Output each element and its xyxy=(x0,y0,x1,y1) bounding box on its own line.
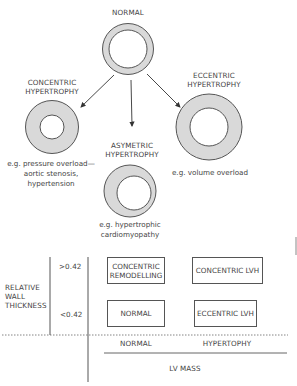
x-normal-label: NORMAL xyxy=(113,339,159,348)
asymmetric-caption: e.g. hypertrophic cardiomyopathy xyxy=(95,220,165,240)
cell-eccentric-lvh: ECCENTRIC LVH xyxy=(194,300,257,327)
asymmetric-label-line-2: HYPERTROPHY xyxy=(100,150,164,159)
concentric-label-line-2: HYPERTROPHY xyxy=(20,87,84,96)
asymmetric-ring-icon xyxy=(104,165,156,217)
y-axis-label-line-2: WALL xyxy=(5,292,47,301)
eccentric-label-line-2: HYPERTROPHY xyxy=(182,80,246,89)
eccentric-hypertrophy-label: ECCENTRIC HYPERTROPHY xyxy=(182,71,246,89)
asymmetric-label-line-1: ASYMETRIC xyxy=(100,141,164,150)
y-high-tick-label: >0.42 xyxy=(59,262,83,271)
asymmetric-caption-line-1: e.g. hypertrophic xyxy=(95,220,165,230)
normal-label: NORMAL xyxy=(108,8,148,17)
cell-concentric-remodelling-line-2: REMODELLING xyxy=(110,271,163,280)
x-axis-label: LV MASS xyxy=(160,364,210,373)
eccentric-label-line-1: ECCENTRIC xyxy=(182,71,246,80)
cell-concentric-remodelling: CONCENTRIC REMODELLING xyxy=(107,257,165,284)
arrow-to-asymmetric-icon xyxy=(131,80,132,126)
concentric-caption-line-1: e.g. pressure overload— xyxy=(2,159,100,169)
x-hypertrophy-label: HYPERTOPHY xyxy=(195,339,259,348)
asymmetric-hypertrophy-label: ASYMETRIC HYPERTROPHY xyxy=(100,141,164,159)
concentric-ring-icon xyxy=(26,101,79,154)
y-axis-label-line-1: RELATIVE xyxy=(5,283,47,292)
concentric-caption-line-2: aortic stenosis, xyxy=(2,169,100,179)
asymmetric-caption-line-2: cardiomyopathy xyxy=(95,230,165,240)
lv-geometry-diagram: NORMAL CONCENTRIC HYPERTROPHY ECCENTRIC … xyxy=(0,0,297,386)
arrow-to-eccentric-icon xyxy=(147,74,180,107)
concentric-label-line-1: CONCENTRIC xyxy=(20,78,84,87)
cell-normal: NORMAL xyxy=(107,300,165,327)
y-axis-label-line-3: THICKNESS xyxy=(5,301,47,310)
concentric-hypertrophy-label: CONCENTRIC HYPERTROPHY xyxy=(20,78,84,96)
cell-concentric-lvh: CONCENTRIC LVH xyxy=(192,257,263,284)
arrow-to-concentric-icon xyxy=(81,75,114,107)
concentric-caption: e.g. pressure overload— aortic stenosis,… xyxy=(2,159,100,189)
cell-concentric-remodelling-line-1: CONCENTRIC xyxy=(110,262,163,271)
concentric-caption-line-3: hypertension xyxy=(2,179,100,189)
normal-ring-icon xyxy=(103,24,154,75)
y-low-tick-label: <0.42 xyxy=(60,310,84,319)
y-axis-label: RELATIVE WALL THICKNESS xyxy=(5,283,47,310)
diagram-graphics xyxy=(0,0,297,386)
eccentric-ring-icon xyxy=(176,94,242,160)
eccentric-caption: e.g. volume overload xyxy=(170,168,250,178)
